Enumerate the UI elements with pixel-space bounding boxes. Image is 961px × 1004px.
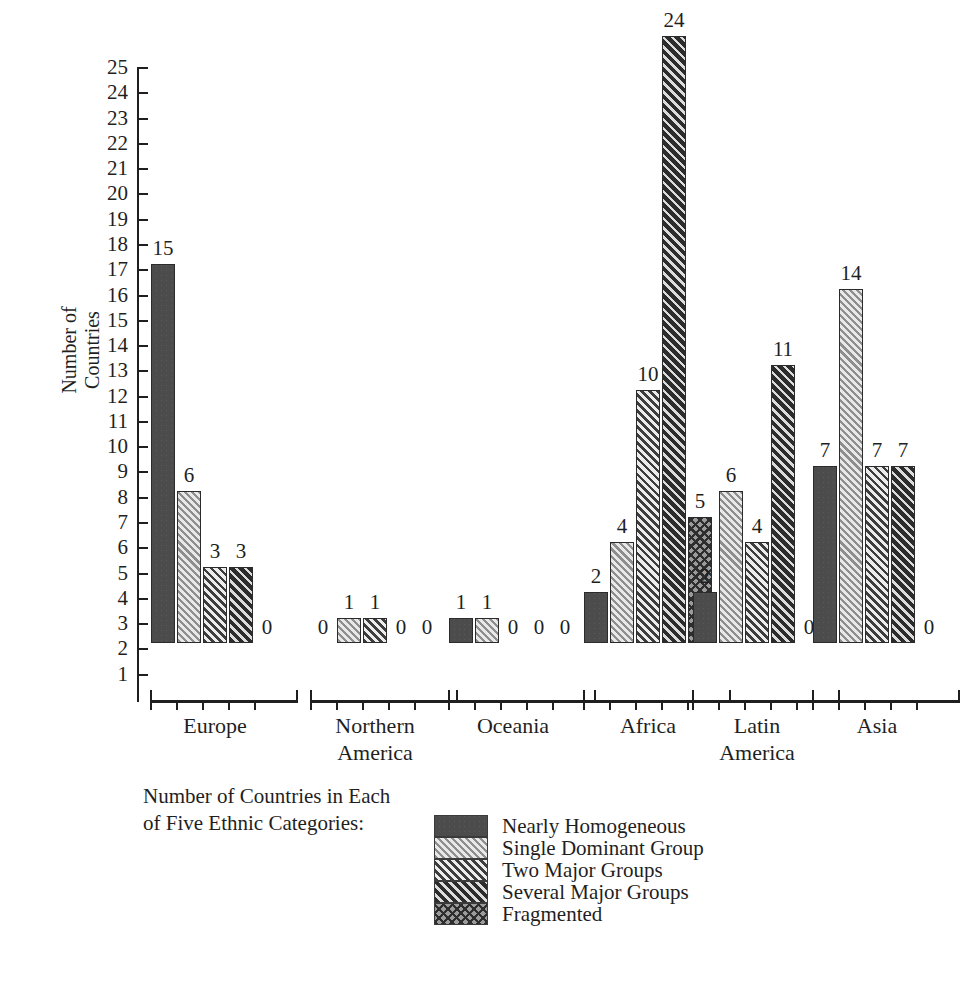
x-axis-tick (796, 700, 798, 710)
bar-value-label: 15 (153, 238, 174, 259)
legend-row[interactable]: Two Major Groups (434, 859, 854, 881)
bar-slot: 4 (744, 0, 770, 703)
bar[interactable] (662, 36, 686, 643)
x-axis-tick (583, 700, 585, 710)
legend-label: Single Dominant Group (502, 837, 704, 859)
bar[interactable] (177, 491, 201, 643)
legend-row[interactable]: Single Dominant Group (434, 837, 854, 859)
y-axis-tick (137, 674, 148, 676)
bar[interactable] (229, 567, 253, 643)
bar[interactable] (610, 542, 634, 643)
legend-row[interactable]: Fragmented (434, 903, 854, 925)
x-axis-tick (336, 700, 338, 710)
y-axis-tick-label: 10 (92, 436, 128, 457)
bar-slot: 14 (838, 0, 864, 703)
bar-value-label: 10 (638, 364, 659, 385)
x-axis-tick (474, 700, 476, 710)
legend-label: Two Major Groups (502, 859, 663, 881)
y-axis-tick (137, 370, 148, 372)
legend-swatch (434, 881, 488, 903)
bar[interactable] (865, 466, 889, 643)
bar[interactable] (337, 618, 361, 643)
bar[interactable] (363, 618, 387, 643)
bar[interactable] (475, 618, 499, 643)
y-axis-tick (137, 522, 148, 524)
bar-slot: 1 (362, 0, 388, 703)
y-axis-tick (137, 118, 148, 120)
bar-slot: 0 (500, 0, 526, 703)
bar[interactable] (203, 567, 227, 643)
y-axis-tick (137, 345, 148, 347)
bar[interactable] (745, 542, 769, 643)
y-axis-tick (137, 320, 148, 322)
y-axis-tick (137, 396, 148, 398)
x-axis-tick (414, 700, 416, 710)
legend-row[interactable]: Several Major Groups (434, 881, 854, 903)
bar-value-label: 0 (924, 617, 935, 638)
bar-value-label: 4 (617, 516, 628, 537)
x-axis-tick (890, 700, 892, 710)
bar-slot: 11 (770, 0, 796, 703)
y-axis-tick-label: 25 (92, 57, 128, 78)
bar[interactable] (151, 264, 175, 643)
x-axis-tick (609, 700, 611, 710)
bar-group: 11000Oceania (448, 0, 596, 760)
y-axis-tick (137, 421, 148, 423)
x-axis-tick (552, 700, 554, 710)
bar-group: 01100Northern America (310, 0, 458, 760)
legend-label: Several Major Groups (502, 881, 689, 903)
axis-endcap (958, 690, 960, 703)
bar-slot: 0 (916, 0, 942, 703)
y-axis-tick (137, 623, 148, 625)
y-axis-tick-label: 24 (92, 82, 128, 103)
bar[interactable] (449, 618, 473, 643)
y-axis-tick (137, 219, 148, 221)
legend-swatch (434, 903, 488, 925)
bar-slot: 0 (414, 0, 440, 703)
y-axis-tick (137, 67, 148, 69)
x-axis-group-label: Oceania (477, 712, 549, 739)
bar[interactable] (719, 491, 743, 643)
bar-value-label: 2 (700, 566, 711, 587)
x-axis-tick (310, 700, 312, 710)
bar[interactable] (839, 289, 863, 643)
bar-value-label: 3 (210, 541, 221, 562)
x-axis-tick (202, 700, 204, 710)
bar-value-label: 0 (534, 617, 545, 638)
bar-value-label: 7 (898, 440, 909, 461)
y-axis-line (137, 68, 139, 702)
x-axis-group-label: Africa (620, 712, 676, 739)
bar-value-label: 4 (752, 516, 763, 537)
bar[interactable] (693, 592, 717, 643)
y-axis-tick-label: 9 (92, 461, 128, 482)
y-axis-tick (137, 547, 148, 549)
y-axis-tick (137, 143, 148, 145)
bar[interactable] (771, 365, 795, 643)
bar-value-label: 1 (482, 592, 493, 613)
y-axis-tick (137, 598, 148, 600)
bar[interactable] (813, 466, 837, 643)
x-axis-tick (687, 700, 689, 710)
bar-value-label: 0 (318, 617, 329, 638)
y-axis-tick (137, 295, 148, 297)
bar[interactable] (891, 466, 915, 643)
x-axis-tick (526, 700, 528, 710)
x-axis-tick (254, 700, 256, 710)
x-axis-tick (448, 700, 450, 710)
y-axis-tick (137, 648, 148, 650)
x-axis-tick (500, 700, 502, 710)
bar-group: 714770Asia (812, 0, 960, 760)
bar-value-label: 0 (396, 617, 407, 638)
bar[interactable] (636, 390, 660, 643)
x-axis-tick (176, 700, 178, 710)
bar-slot: 0 (254, 0, 280, 703)
bar-slot: 0 (388, 0, 414, 703)
x-axis-tick (718, 700, 720, 710)
bar[interactable] (584, 592, 608, 643)
y-axis-tick-label: 18 (92, 234, 128, 255)
y-axis-tick-label: 23 (92, 108, 128, 129)
bar-slot: 0 (526, 0, 552, 703)
legend-row[interactable]: Nearly Homogeneous (434, 815, 854, 837)
legend-swatch (434, 837, 488, 859)
x-axis-tick (228, 700, 230, 710)
